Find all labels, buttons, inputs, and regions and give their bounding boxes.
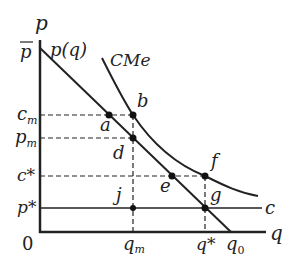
y-axis-label: p — [35, 11, 48, 35]
p-star-label: p* — [17, 197, 37, 217]
label-g: g — [210, 184, 222, 205]
point-f — [202, 173, 209, 180]
point-j — [130, 205, 136, 211]
label-a: a — [100, 114, 111, 135]
point-b — [130, 112, 137, 119]
marginal-cost-label: c — [265, 197, 275, 218]
q-m-label: qm — [123, 233, 145, 256]
label-d: d — [113, 142, 125, 163]
point-d — [130, 135, 137, 142]
label-j: j — [112, 184, 122, 205]
p-bar-label: p — [20, 41, 32, 62]
cost-diagram: p q 0 p(q) CMe c p cm pm c* p* qm q* q0 … — [0, 0, 294, 270]
x-axis-label: q — [270, 221, 283, 245]
c-star-label: c* — [17, 165, 36, 185]
origin-label: 0 — [22, 233, 33, 254]
p-m-label: pm — [15, 126, 37, 150]
demand-label: p(q) — [50, 39, 87, 60]
label-f: f — [209, 150, 221, 171]
c-m-label: cm — [17, 103, 38, 127]
q-star-label: q* — [196, 234, 216, 254]
q-0-label: q0 — [226, 233, 245, 257]
point-g — [202, 205, 209, 212]
label-b: b — [137, 90, 149, 111]
label-e: e — [160, 175, 171, 196]
average-cost-label: CMe — [110, 50, 150, 70]
average-cost-curve — [102, 58, 258, 196]
dashed-guides — [40, 115, 205, 232]
